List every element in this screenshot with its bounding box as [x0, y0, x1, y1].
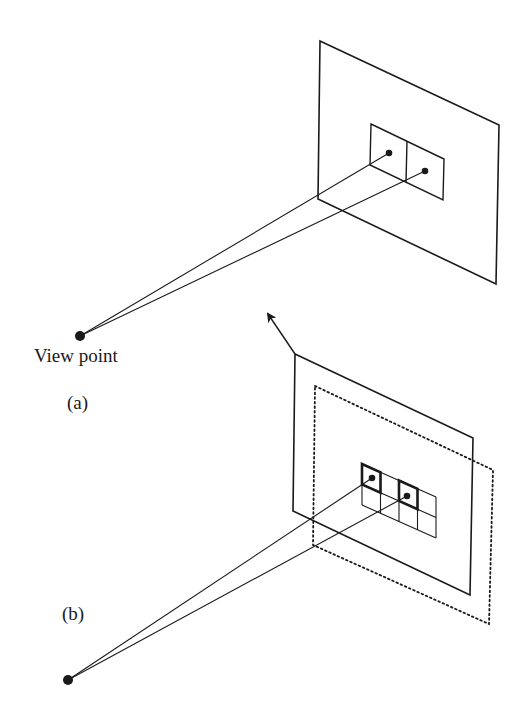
pixel-divider-a: [406, 141, 407, 182]
caption-a: (a): [67, 393, 88, 412]
sample-point-b-0: [369, 475, 376, 482]
ray-a-1: [80, 171, 425, 336]
caption-b: (b): [62, 604, 84, 623]
sample-point-a-1: [422, 168, 429, 175]
ray-b-0: [68, 478, 372, 680]
sample-point-a-0: [386, 150, 393, 157]
image-plane-b: [293, 354, 473, 595]
ray-a-0: [80, 153, 389, 336]
panel-b: [63, 314, 493, 685]
viewpoint-label: View point: [34, 346, 118, 365]
viewpoint-b: [63, 675, 73, 685]
motion-arrow: [268, 314, 295, 354]
viewpoint-a: [75, 331, 85, 341]
sample-point-b-1: [404, 493, 411, 500]
ray-b-1: [68, 496, 407, 680]
shifted-plane-dotted: [313, 386, 493, 624]
panel-a: [75, 41, 499, 341]
image-plane-a: [318, 41, 499, 284]
